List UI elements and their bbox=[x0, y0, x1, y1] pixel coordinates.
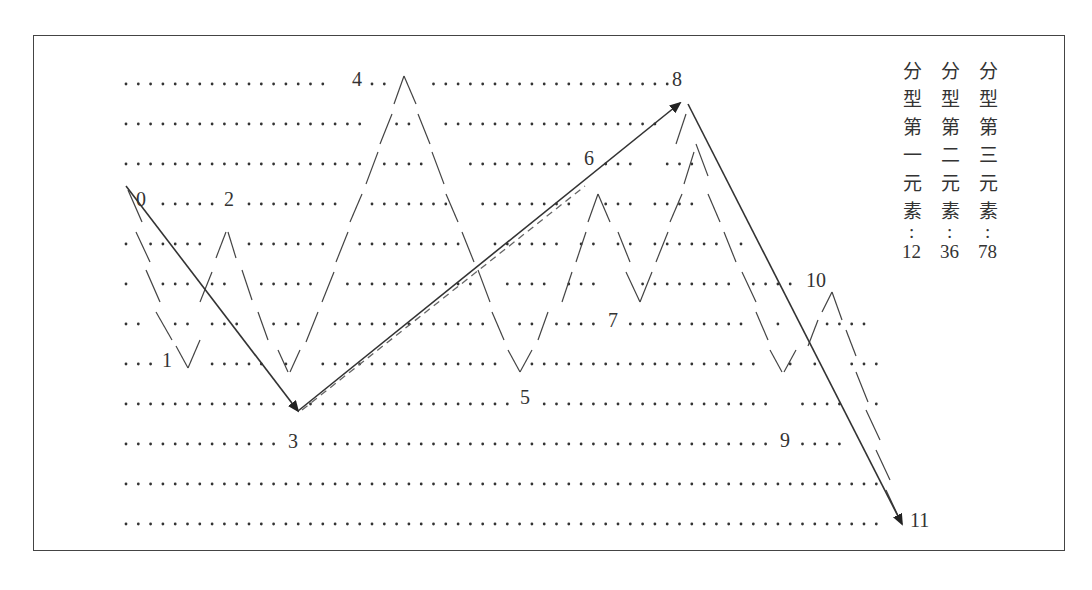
legend-char: 素 bbox=[903, 200, 922, 222]
point-label-4: 4 bbox=[352, 68, 362, 90]
arrow-0-to-3 bbox=[126, 186, 298, 411]
legend-char: 分 bbox=[941, 60, 960, 82]
point-label-9: 9 bbox=[780, 429, 790, 451]
arrow-3-to-8 bbox=[298, 103, 680, 411]
legend-char: 一 bbox=[903, 144, 922, 166]
arrow-8-to-11 bbox=[688, 104, 902, 524]
legend-char: 第 bbox=[979, 116, 998, 138]
point-label-2: 2 bbox=[224, 188, 234, 210]
legend-value: 12 bbox=[902, 241, 921, 262]
legend-value: 36 bbox=[940, 241, 959, 262]
legend-char: 分 bbox=[979, 60, 998, 82]
legend: 分型第一元素:12分型第二元素:36分型第三元素:78 bbox=[902, 60, 998, 262]
point-label-11: 11 bbox=[910, 509, 929, 531]
legend-char: 元 bbox=[903, 172, 922, 194]
legend-colon: : bbox=[909, 221, 914, 242]
point-label-1: 1 bbox=[162, 349, 172, 371]
price-path-slashes bbox=[128, 76, 900, 520]
legend-char: 二 bbox=[941, 144, 960, 166]
legend-char: 第 bbox=[903, 116, 922, 138]
legend-char: 素 bbox=[941, 200, 960, 222]
fractal-diagram: 0 1 2 3 4 5 6 7 8 9 10 11 分型第一元素:12分型第二元… bbox=[0, 0, 1092, 590]
legend-char: 型 bbox=[903, 88, 922, 110]
legend-char: 三 bbox=[979, 144, 998, 166]
legend-colon: : bbox=[947, 221, 952, 242]
dotted-grid bbox=[125, 83, 878, 526]
point-label-6: 6 bbox=[584, 147, 594, 169]
dashed-line-3-to-6 bbox=[302, 186, 585, 410]
legend-value: 78 bbox=[978, 241, 997, 262]
legend-char: 分 bbox=[903, 60, 922, 82]
point-label-8: 8 bbox=[672, 68, 682, 90]
legend-colon: : bbox=[985, 221, 990, 242]
legend-char: 元 bbox=[941, 172, 960, 194]
arrows bbox=[126, 103, 902, 524]
legend-char: 型 bbox=[979, 88, 998, 110]
point-labels: 0 1 2 3 4 5 6 7 8 9 10 11 bbox=[136, 68, 929, 531]
legend-char: 第 bbox=[941, 116, 960, 138]
point-label-7: 7 bbox=[608, 309, 618, 331]
legend-char: 型 bbox=[941, 88, 960, 110]
point-label-3: 3 bbox=[288, 430, 298, 452]
legend-char: 元 bbox=[979, 172, 998, 194]
point-label-5: 5 bbox=[520, 386, 530, 408]
legend-char: 素 bbox=[979, 200, 998, 222]
point-label-10: 10 bbox=[806, 269, 826, 291]
